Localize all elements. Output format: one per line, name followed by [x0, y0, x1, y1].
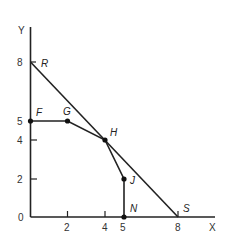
y-tick-8: 8: [17, 57, 23, 68]
y-tick-2: 2: [17, 174, 23, 185]
label-n: N: [130, 203, 138, 214]
y-tick-5: 5: [17, 116, 23, 127]
diagram-canvas: Y X 0 8 5 4 2 2 4 5 8 R F G H J N S: [0, 0, 227, 246]
label-g: G: [63, 106, 71, 117]
x-axis-label: X: [209, 222, 216, 233]
x-ticks: 2 4 5 8: [64, 211, 181, 233]
point-n: [121, 214, 126, 219]
label-h: H: [110, 127, 118, 138]
point-g: [65, 118, 70, 123]
x-tick-2: 2: [64, 222, 70, 233]
label-j: J: [129, 175, 136, 186]
x-tick-5: 5: [120, 222, 126, 233]
label-f: F: [36, 107, 43, 118]
origin-label: 0: [18, 212, 24, 223]
label-s: S: [183, 203, 190, 214]
y-tick-4: 4: [17, 135, 23, 146]
point-f: [28, 118, 33, 123]
point-h: [102, 137, 107, 142]
label-r: R: [41, 58, 48, 69]
x-tick-8: 8: [175, 222, 181, 233]
point-j: [121, 176, 126, 181]
x-tick-4: 4: [102, 222, 108, 233]
y-axis-label: Y: [18, 25, 25, 36]
